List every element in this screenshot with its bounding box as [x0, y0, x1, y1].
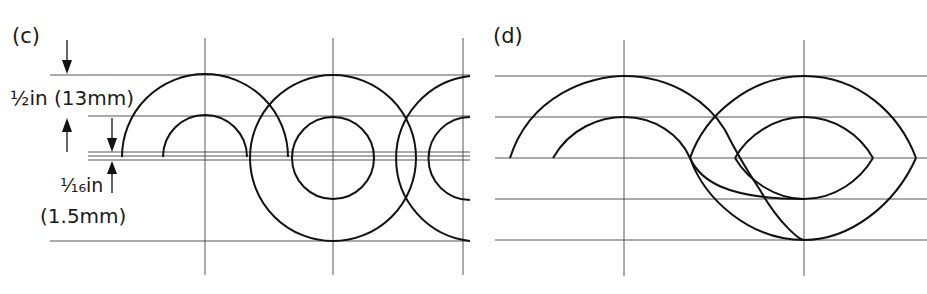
- panel-d-label: (d): [493, 26, 523, 47]
- dimension-sixteenth-mm: (1.5mm): [40, 206, 126, 226]
- panel-c-grid: [50, 38, 470, 275]
- diagram-canvas: [0, 0, 927, 294]
- dimension-sixteenth-inch: ¹⁄₁₆in: [60, 176, 103, 195]
- panel-c-dimension-arrows: [62, 40, 117, 193]
- panel-d-grid: [495, 40, 927, 276]
- panel-c-curves: [122, 74, 470, 241]
- dimension-half-inch: ½in (13mm): [10, 88, 134, 108]
- panel-c-label: (c): [12, 26, 40, 47]
